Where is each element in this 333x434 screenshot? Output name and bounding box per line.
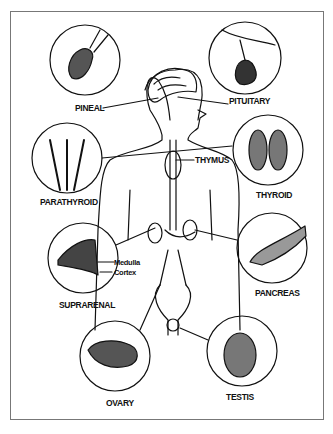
label-suprarenal: SUPRARENAL: [59, 300, 115, 310]
label-cortex: Cortex: [114, 268, 136, 277]
thyroid-circle: [233, 115, 303, 185]
label-pituitary: PITUITARY: [229, 96, 270, 106]
endocrine-illustration: [0, 0, 333, 434]
label-testis: TESTIS: [226, 392, 254, 402]
label-medulla: Medulla: [114, 258, 140, 267]
label-parathyroid: PARATHYROID: [40, 197, 98, 207]
body-outline: [95, 69, 240, 330]
label-pancreas: PANCREAS: [255, 288, 300, 298]
label-thyroid: THYROID: [256, 190, 292, 200]
label-ovary: OVARY: [106, 398, 134, 408]
label-pineal: PINEAL: [75, 103, 104, 113]
label-thymus: THYMUS: [195, 155, 229, 165]
